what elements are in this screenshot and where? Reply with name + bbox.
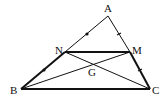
segment-NC: [65, 52, 150, 89]
label-G: G: [88, 66, 96, 78]
tick-mark-NB: [42, 68, 45, 71]
label-N: N: [55, 44, 63, 56]
label-A: A: [104, 2, 112, 14]
tick-mark-AN: [85, 32, 88, 35]
label-B: B: [10, 84, 17, 96]
segment-BM: [21, 52, 130, 89]
label-M: M: [132, 44, 142, 56]
geometry-diagram: A N M G B C: [0, 0, 166, 107]
triangle-figure: A N M G B C: [0, 0, 166, 107]
label-C: C: [152, 84, 159, 96]
